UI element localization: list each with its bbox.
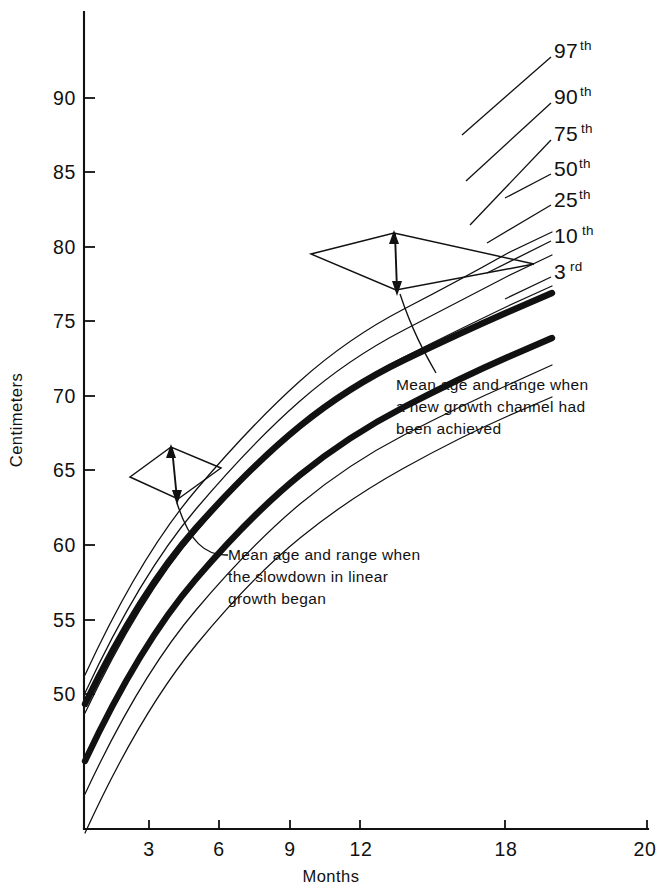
growth-chart-figure: 90 85 80 75 70 65 60 55 50 3 6 9 12 18 2…	[0, 0, 665, 886]
y-tick-label: 70	[53, 385, 76, 407]
percentile-label-50: 50th	[554, 156, 591, 180]
percentile-label-3: 3rd	[554, 259, 583, 283]
x-tick-label: 12	[350, 838, 373, 860]
annotation-upper-line2: a new growth channel had	[396, 398, 585, 415]
y-tick-label: 90	[53, 87, 76, 109]
x-tick-label: 20	[634, 838, 657, 860]
x-tick-labels: 3 6 9 12 18 20	[143, 838, 656, 860]
percentile-curve-97	[85, 232, 552, 675]
y-tick-label: 85	[53, 161, 76, 183]
percentile-label-25: 25th	[554, 187, 591, 211]
percentile-label-75: 75th	[554, 121, 593, 145]
leader-line-50	[505, 174, 551, 198]
percentile-label-90: 90th	[554, 84, 592, 108]
percentile-label-97: 97th	[554, 38, 592, 62]
annotation-lower-line1: Mean age and range when	[228, 546, 420, 563]
x-tick-label: 9	[284, 838, 295, 860]
annotation-upper-line3: been achieved	[396, 420, 501, 437]
percentile-curves-group	[85, 232, 552, 833]
y-tick-marks	[84, 98, 95, 694]
y-tick-label: 50	[53, 683, 76, 705]
percentile-leader-lines	[462, 57, 551, 299]
y-axis-title: Centimeters	[7, 373, 25, 467]
chart-canvas: 90 85 80 75 70 65 60 55 50 3 6 9 12 18 2…	[0, 0, 665, 886]
y-tick-labels: 90 85 80 75 70 65 60 55 50	[53, 87, 76, 705]
percentile-curve-50	[85, 293, 552, 704]
annotation-upper-text: Mean age and range when a new growth cha…	[396, 376, 588, 437]
annotation-lower-line3: growth began	[228, 590, 326, 607]
leader-line-10	[487, 241, 551, 273]
x-axis-title: Months	[302, 867, 359, 885]
y-tick-label: 80	[53, 236, 76, 258]
marker-range-diamond-upper	[311, 233, 534, 290]
leader-line-97	[462, 57, 551, 135]
x-tick-marks	[149, 820, 647, 829]
y-tick-label: 55	[53, 609, 76, 631]
x-tick-label: 6	[213, 838, 224, 860]
annotation-lower-text: Mean age and range when the slowdown in …	[228, 546, 420, 607]
marker-new-channel-achieved	[311, 230, 534, 296]
leader-line-90	[466, 103, 551, 181]
percentile-label-10: 10th	[554, 223, 594, 247]
x-tick-label: 3	[143, 838, 154, 860]
annotation-lower-line2: the slowdown in linear	[228, 568, 388, 585]
y-tick-label: 75	[53, 310, 76, 332]
y-tick-label: 60	[53, 534, 76, 556]
percentile-labels-group: 97th 90th 75th 50th 25th 10th 3rd	[554, 38, 594, 283]
percentile-curve-75	[85, 286, 552, 713]
annotation-upper-line1: Mean age and range when	[396, 376, 588, 393]
x-tick-label: 18	[495, 838, 518, 860]
marker-arrow-up-upper	[389, 230, 399, 244]
marker-arrow-up-lower	[166, 444, 176, 458]
y-tick-label: 65	[53, 459, 76, 481]
